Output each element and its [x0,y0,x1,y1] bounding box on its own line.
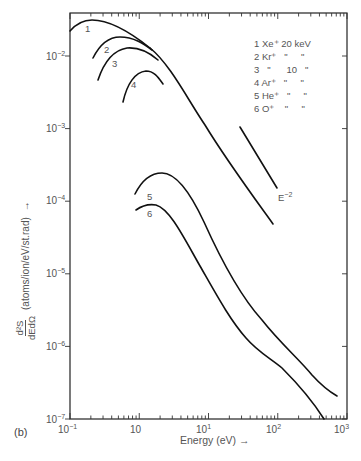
legend: 1 Xe⁺ 20 keV 2 Kr⁺ " " 3 " 10 " 4 Ar⁺ " … [254,38,311,114]
x-axis-label: Energy (eV) → [180,434,249,446]
y-tick-1e-4: 10−4 [46,194,65,206]
x-tick-100: 102 [266,423,281,435]
y-tick-1e-5: 10−5 [46,267,65,279]
legend-item-1: 1 Xe⁺ 20 keV [254,38,311,49]
curve-label-4: 4 [131,79,136,90]
x-tick-1000: 103 [334,423,349,435]
curve-1-xe-20kev [70,20,150,48]
x-tick-0.1: 10−1 [58,423,77,435]
y-tick-1e-6: 10−6 [46,340,65,352]
curve-label-3: 3 [112,58,117,69]
x-tick-1: 10 [130,424,142,435]
curve-2-kr-20kev [93,37,152,58]
curve-label-1: 1 [85,23,90,34]
y-tick-1e-3: 10−3 [46,122,65,134]
y-axis-arrow-icon: → [20,201,31,211]
chart-canvas: 10−1 10 101 102 103 10−2 10−3 10−4 10−5 … [0,0,361,461]
y-tick-labels: 10−2 10−3 10−4 10−5 10−6 10−7 [46,50,65,425]
curve-label-6: 6 [147,208,152,219]
curve-4-ar-10kev [123,71,163,102]
y-axis-units: (atoms/ion/eV/st.rad) [20,217,31,310]
y-axis-fraction: d²S dEdΩ [14,316,37,340]
panel-label: (b) [14,426,27,438]
curve-label-2: 2 [104,44,109,55]
curve-5-he-10kev [135,173,337,396]
curve-6-o-10kev [136,205,324,419]
curve-labels: 1 2 3 4 5 6 [85,23,152,219]
legend-item-6: 6 O⁺ " " [254,103,305,114]
legend-item-3: 3 " 10 " [254,64,308,75]
e-minus-2-label: E−2 [278,191,292,203]
y-axis-label: d²S dEdΩ (atoms/ion/eV/st.rad) → [14,140,44,340]
e-minus-2-reference-line [240,127,277,188]
legend-item-4: 4 Ar⁺ " " [254,77,304,88]
y-tick-1e-2: 10−2 [46,50,65,62]
legend-item-2: 2 Kr⁺ " " [254,51,304,62]
x-axis-arrow-icon: → [239,434,250,446]
legend-item-5: 5 He⁺ " " [254,90,307,101]
curve-label-5: 5 [147,191,152,202]
